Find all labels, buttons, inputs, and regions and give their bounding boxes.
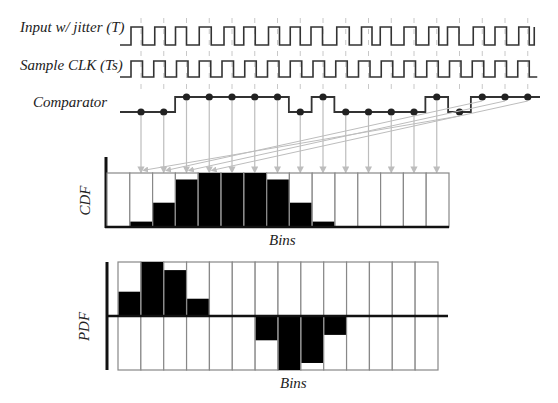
cdf-bar: [199, 173, 221, 227]
sample-dot: [137, 108, 144, 115]
sample-dot: [388, 108, 395, 115]
cdf-bin: [403, 173, 426, 227]
comparator-waveform: [120, 97, 540, 112]
sample-dot: [433, 93, 440, 100]
sample-dot: [319, 93, 326, 100]
sample-dot: [501, 93, 508, 100]
pdf-bar-negative: [301, 316, 323, 363]
pdf-bar-negative: [324, 316, 346, 335]
cdf-bar: [222, 173, 244, 227]
pdf-axis-label: PDF: [76, 312, 93, 341]
sample-dot: [479, 93, 486, 100]
comparator-label: Comparator: [33, 94, 107, 111]
pdf-bar-positive: [141, 262, 163, 316]
pdf-bins-label: Bins: [280, 375, 307, 392]
sample-dot: [342, 108, 349, 115]
cdf-bin: [130, 173, 153, 227]
pdf-bar-positive: [187, 299, 209, 316]
cdf-bar: [267, 179, 289, 227]
pdf-bar-negative: [279, 316, 301, 370]
cdf-bar: [290, 203, 312, 227]
cdf-bin: [426, 173, 449, 227]
pdf-bar-positive: [119, 292, 141, 316]
cdf-bar: [244, 173, 266, 227]
sample-dot: [297, 108, 304, 115]
sample-dot: [183, 93, 190, 100]
pdf-bar-negative: [256, 316, 278, 340]
cdf-bar: [176, 179, 198, 227]
sample-dot: [274, 93, 281, 100]
sample-dot: [251, 93, 258, 100]
sample-dot: [206, 93, 213, 100]
sample-dot: [160, 108, 167, 115]
wrap-arrow: [145, 116, 459, 170]
cdf-bin: [381, 173, 404, 227]
cdf-bar: [153, 203, 175, 227]
cdf-bin: [107, 173, 130, 227]
pdf-bar-positive: [164, 270, 186, 316]
cdf-bin: [358, 173, 381, 227]
input-jitter-label: Input w/ jitter (T): [20, 19, 125, 36]
cdf-bin: [335, 173, 358, 227]
sample-dot: [365, 108, 372, 115]
cdf-bin: [312, 173, 335, 227]
sample-clk-label: Sample CLK (Ts): [20, 57, 123, 74]
input-jitter-waveform: [120, 27, 534, 45]
sample-dot: [228, 93, 235, 100]
sample-dot: [524, 93, 531, 100]
wrap-arrow: [168, 101, 482, 170]
cdf-bins-label: Bins: [269, 232, 296, 249]
sample-dot: [410, 108, 417, 115]
cdf-axis-label: CDF: [77, 186, 94, 216]
sample-clk-waveform: [120, 61, 537, 77]
